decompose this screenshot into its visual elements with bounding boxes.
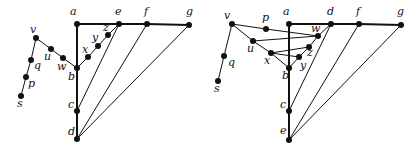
left-graph-vertex-g — [186, 22, 192, 28]
left-graph-label-y: y — [91, 31, 99, 44]
right-graph-vertex-f — [356, 21, 362, 27]
right-graph-vertex-g — [398, 22, 404, 28]
left-graph-edge-f-d — [77, 24, 147, 139]
left-graph-label-d: d — [68, 125, 75, 138]
right-graph-edge-q-s — [218, 56, 224, 81]
right-graph-label-x: x — [264, 54, 271, 67]
right-graph-label-e: e — [280, 124, 287, 137]
right-graph-label-u: u — [247, 42, 254, 55]
left-graph-label-x: x — [82, 43, 89, 56]
left-graph-label-u: u — [44, 50, 51, 63]
left-graph-vertex-f — [144, 21, 150, 27]
left-graph-edge-v-q — [31, 38, 36, 60]
left-graph-label-p: p — [28, 77, 35, 90]
left-graph-label-c: c — [68, 98, 74, 111]
right-graph-label-c: c — [280, 98, 286, 111]
right-graph-label-v: v — [224, 9, 231, 22]
left-graph-label-b: b — [68, 70, 75, 83]
right-graph-label-b: b — [282, 69, 289, 82]
left-graph-label-e: e — [115, 5, 122, 18]
right-graph-edge-v-q — [224, 24, 232, 56]
left-graph-vertex-c — [74, 108, 80, 114]
right-graph-vertex-p — [263, 26, 269, 32]
right-graph-edge-g-e — [289, 25, 401, 140]
right-graph-label-f: f — [355, 5, 362, 18]
right-graph-label-p: p — [262, 11, 269, 24]
right-graph-label-a: a — [283, 5, 290, 18]
left-graph-vertex-a — [74, 21, 80, 27]
right-graph-label-q: q — [228, 56, 235, 69]
left-graph-label-z: z — [102, 21, 109, 34]
left-graph-edge-f-g — [147, 24, 189, 25]
left-graph-label-f: f — [143, 5, 150, 18]
left-graph-label-w: w — [57, 60, 67, 73]
edges-layer — [21, 24, 401, 140]
right-graph-vertex-e — [286, 137, 292, 143]
left-graph-vertex-e — [116, 21, 122, 27]
left-graph-label-s: s — [17, 97, 23, 110]
left-graph-label-v: v — [30, 23, 37, 36]
right-graph-label-z: z — [306, 46, 313, 59]
left-graph-label-g: g — [186, 5, 193, 18]
right-graph-vertex-q — [221, 53, 227, 59]
right-graph-vertex-a — [286, 21, 292, 27]
right-graph-label-w: w — [311, 22, 321, 35]
right-graph-edge-f-g — [359, 24, 401, 25]
right-graph-label-s: s — [214, 82, 220, 95]
graph-diagram: aefgzyxbwuvqpscdadfgvpwuzxybqsce — [0, 0, 418, 152]
left-graph-label-q: q — [34, 59, 41, 72]
left-graph-label-a: a — [70, 5, 77, 18]
right-graph-label-g: g — [397, 5, 404, 18]
right-graph-vertex-d — [328, 21, 334, 27]
right-graph-vertex-c — [286, 108, 292, 114]
right-graph-label-d: d — [327, 5, 334, 18]
right-graph-edge-f-e — [289, 24, 359, 140]
right-graph-edge-u-w — [253, 36, 318, 41]
right-graph-label-y: y — [299, 59, 307, 72]
right-graph-edge-u-x — [253, 41, 271, 53]
